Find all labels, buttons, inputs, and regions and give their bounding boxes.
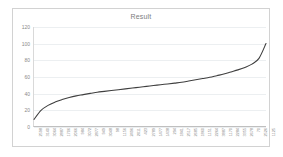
x-tick-label: 1151: [206, 128, 210, 136]
x-tick-label: 3064: [51, 128, 55, 137]
x-tick-label: 2526: [262, 128, 266, 137]
x-tick-label: 949: [100, 128, 104, 134]
x-tick-label: 2678: [248, 128, 252, 137]
x-tick-label: 2877: [93, 128, 97, 137]
series-line-chart: [34, 27, 266, 126]
x-tick-label: 2598: [37, 128, 41, 137]
x-tick-label: 98: [114, 128, 118, 132]
y-tick-label: 100: [22, 41, 30, 46]
x-tick-label: 1841: [178, 128, 182, 137]
x-tick-label: 2517: [185, 128, 189, 137]
x-tick-label: 1125: [270, 128, 274, 136]
x-tick-label: 2011: [135, 128, 139, 136]
x-tick-label: 2284: [234, 128, 238, 137]
chart-title: Result: [13, 13, 269, 20]
x-tick-label: 70: [255, 128, 259, 132]
x-tick-label: 2789: [150, 128, 154, 137]
y-axis: 020406080100120: [13, 27, 32, 127]
x-tick-label: 3355: [241, 128, 245, 137]
y-tick-label: 40: [24, 91, 30, 96]
plot-area: [33, 27, 266, 127]
chart-container: Result 020406080100120 25983140306428871…: [12, 8, 270, 147]
x-tick-label: 1860: [199, 128, 203, 137]
x-tick-label: 1477: [157, 128, 161, 137]
x-tick-label: 984: [79, 128, 83, 134]
x-tick-label: 423: [142, 128, 146, 134]
x-tick-label: 3887: [220, 128, 224, 137]
x-tick-label: 3140: [44, 128, 48, 137]
x-tick-label: 2887: [58, 128, 62, 137]
y-tick-label: 20: [24, 108, 30, 113]
x-tick-label: 294: [171, 128, 175, 134]
x-tick-label: 1170: [227, 128, 231, 136]
x-tick-label: 1706: [65, 128, 69, 137]
x-axis: 2598314030642887170620669843072287794930…: [33, 128, 266, 147]
x-tick-label: 2264: [213, 128, 217, 137]
y-tick-label: 60: [24, 75, 30, 80]
y-tick-label: 0: [27, 125, 30, 130]
x-tick-label: 2496: [128, 128, 132, 137]
x-tick-label: 1156: [121, 128, 125, 136]
y-tick-label: 80: [24, 58, 30, 63]
x-tick-label: 1438: [164, 128, 168, 137]
y-tick-label: 120: [22, 25, 30, 30]
x-tick-label: 3072: [86, 128, 90, 137]
x-tick-label: 3048: [107, 128, 111, 137]
x-tick-label: 2685: [192, 128, 196, 137]
x-tick-label: 2066: [72, 128, 76, 137]
series-path-result: [34, 44, 266, 120]
